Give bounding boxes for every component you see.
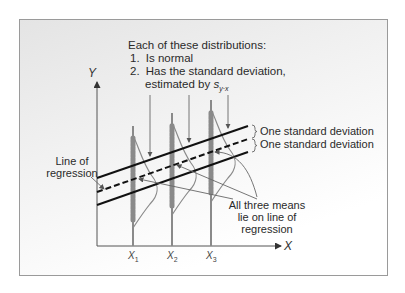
distribution-x2 bbox=[172, 113, 196, 246]
means-label-3: regression bbox=[226, 223, 308, 235]
std-dev-label-upper: One standard deviation bbox=[260, 125, 374, 137]
tick-x1-sub: 1 bbox=[135, 256, 139, 263]
property-1-number: 1. bbox=[130, 52, 140, 64]
tick-x3-base: X bbox=[206, 250, 213, 261]
y-axis-label: Y bbox=[88, 66, 96, 80]
line-of-regression-label: Line of regression bbox=[44, 155, 100, 179]
estimated-by-line: estimated by sy·x bbox=[145, 78, 229, 95]
estimated-by-text: estimated by bbox=[145, 78, 213, 90]
means-label-1: All three means bbox=[226, 199, 308, 211]
x-axis-label: X bbox=[284, 239, 292, 253]
tick-x2-base: X bbox=[167, 250, 174, 261]
property-2-text: Has the standard deviation, bbox=[146, 65, 286, 77]
property-1-text: Is normal bbox=[146, 52, 193, 64]
tick-x3-sub: 3 bbox=[213, 256, 217, 263]
tick-x2: X2 bbox=[167, 250, 178, 263]
means-label: All three means lie on line of regressio… bbox=[226, 199, 308, 235]
tick-x2-sub: 2 bbox=[174, 256, 178, 263]
property-2-number: 2. bbox=[130, 65, 140, 77]
line-of-regression-label-2: regression bbox=[44, 167, 100, 179]
std-dev-braces bbox=[252, 125, 257, 152]
std-dev-label-lower: One standard deviation bbox=[260, 138, 374, 150]
tick-x1: X1 bbox=[128, 250, 139, 263]
estimator-subscript: y·x bbox=[219, 85, 228, 92]
tick-x3: X3 bbox=[206, 250, 217, 263]
tick-x1-base: X bbox=[128, 250, 135, 261]
property-1: 1. Is normal bbox=[130, 52, 193, 64]
distributions-heading: Each of these distributions: bbox=[128, 39, 266, 51]
means-label-2: lie on line of bbox=[226, 211, 308, 223]
line-of-regression-label-1: Line of bbox=[44, 155, 100, 167]
property-2: 2. Has the standard deviation, bbox=[130, 65, 286, 77]
